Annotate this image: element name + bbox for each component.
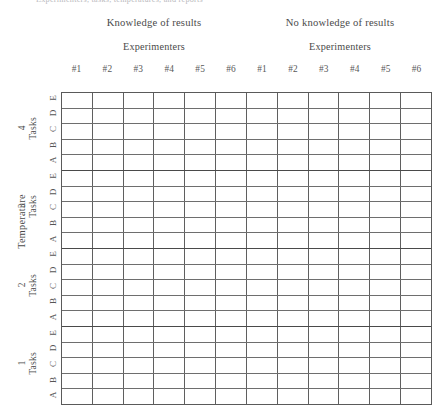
grid-cell[interactable] xyxy=(278,218,309,233)
grid-cell[interactable] xyxy=(309,343,340,358)
grid-cell[interactable] xyxy=(278,358,309,373)
grid-cell[interactable] xyxy=(216,311,247,326)
grid-cell[interactable] xyxy=(93,202,124,217)
grid-cell[interactable] xyxy=(62,218,93,233)
grid-cell[interactable] xyxy=(93,93,124,108)
grid-cell[interactable] xyxy=(62,296,93,311)
grid-cell[interactable] xyxy=(370,202,401,217)
grid-cell[interactable] xyxy=(93,233,124,248)
grid-cell[interactable] xyxy=(247,171,278,186)
grid-cell[interactable] xyxy=(278,327,309,342)
grid-cell[interactable] xyxy=(247,374,278,389)
grid-cell[interactable] xyxy=(185,124,216,139)
grid-cell[interactable] xyxy=(124,124,155,139)
grid-cell[interactable] xyxy=(62,109,93,124)
grid-cell[interactable] xyxy=(185,218,216,233)
grid-cell[interactable] xyxy=(93,187,124,202)
grid-cell[interactable] xyxy=(278,311,309,326)
grid-cell[interactable] xyxy=(154,124,185,139)
grid-cell[interactable] xyxy=(339,124,370,139)
grid-cell[interactable] xyxy=(93,296,124,311)
grid-cell[interactable] xyxy=(185,140,216,155)
grid-cell[interactable] xyxy=(339,311,370,326)
grid-cell[interactable] xyxy=(278,124,309,139)
grid-cell[interactable] xyxy=(401,327,431,342)
grid-cell[interactable] xyxy=(247,140,278,155)
grid-cell[interactable] xyxy=(62,265,93,280)
grid-cell[interactable] xyxy=(154,140,185,155)
grid-cell[interactable] xyxy=(370,233,401,248)
grid-cell[interactable] xyxy=(124,327,155,342)
grid-cell[interactable] xyxy=(247,93,278,108)
grid-cell[interactable] xyxy=(185,389,216,404)
grid-cell[interactable] xyxy=(370,124,401,139)
grid-cell[interactable] xyxy=(247,389,278,404)
grid-cell[interactable] xyxy=(370,265,401,280)
grid-cell[interactable] xyxy=(93,249,124,264)
grid-cell[interactable] xyxy=(62,140,93,155)
grid-cell[interactable] xyxy=(124,218,155,233)
grid-cell[interactable] xyxy=(62,124,93,139)
grid-cell[interactable] xyxy=(247,218,278,233)
grid-cell[interactable] xyxy=(185,233,216,248)
grid-cell[interactable] xyxy=(339,233,370,248)
grid-cell[interactable] xyxy=(278,93,309,108)
grid-cell[interactable] xyxy=(154,218,185,233)
grid-cell[interactable] xyxy=(401,218,431,233)
grid-cell[interactable] xyxy=(278,233,309,248)
grid-cell[interactable] xyxy=(216,343,247,358)
grid-cell[interactable] xyxy=(339,265,370,280)
grid-cell[interactable] xyxy=(278,171,309,186)
grid-cell[interactable] xyxy=(278,265,309,280)
grid-cell[interactable] xyxy=(154,233,185,248)
grid-cell[interactable] xyxy=(247,233,278,248)
grid-cell[interactable] xyxy=(185,343,216,358)
grid-cell[interactable] xyxy=(216,358,247,373)
grid-cell[interactable] xyxy=(309,374,340,389)
grid-cell[interactable] xyxy=(309,265,340,280)
grid-cell[interactable] xyxy=(247,202,278,217)
grid-cell[interactable] xyxy=(62,327,93,342)
grid-cell[interactable] xyxy=(62,249,93,264)
grid-cell[interactable] xyxy=(124,187,155,202)
grid-cell[interactable] xyxy=(185,93,216,108)
grid-cell[interactable] xyxy=(401,109,431,124)
grid-cell[interactable] xyxy=(247,187,278,202)
grid-cell[interactable] xyxy=(278,280,309,295)
grid-cell[interactable] xyxy=(339,202,370,217)
grid-cell[interactable] xyxy=(309,249,340,264)
grid-cell[interactable] xyxy=(154,389,185,404)
grid-cell[interactable] xyxy=(401,265,431,280)
grid-cell[interactable] xyxy=(278,296,309,311)
grid-cell[interactable] xyxy=(62,93,93,108)
grid-cell[interactable] xyxy=(309,124,340,139)
grid-cell[interactable] xyxy=(401,389,431,404)
grid-cell[interactable] xyxy=(62,155,93,170)
grid-cell[interactable] xyxy=(93,218,124,233)
grid-cell[interactable] xyxy=(93,389,124,404)
grid-cell[interactable] xyxy=(154,343,185,358)
grid-cell[interactable] xyxy=(124,311,155,326)
grid-cell[interactable] xyxy=(185,171,216,186)
grid-cell[interactable] xyxy=(93,109,124,124)
grid-cell[interactable] xyxy=(216,218,247,233)
grid-cell[interactable] xyxy=(185,249,216,264)
grid-cell[interactable] xyxy=(62,202,93,217)
grid-cell[interactable] xyxy=(124,140,155,155)
grid-cell[interactable] xyxy=(62,187,93,202)
grid-cell[interactable] xyxy=(185,109,216,124)
grid-cell[interactable] xyxy=(247,124,278,139)
grid-cell[interactable] xyxy=(154,93,185,108)
grid-cell[interactable] xyxy=(309,202,340,217)
grid-cell[interactable] xyxy=(401,374,431,389)
grid-cell[interactable] xyxy=(216,187,247,202)
grid-cell[interactable] xyxy=(93,358,124,373)
grid-cell[interactable] xyxy=(62,389,93,404)
grid-cell[interactable] xyxy=(401,155,431,170)
grid-cell[interactable] xyxy=(154,296,185,311)
grid-cell[interactable] xyxy=(370,109,401,124)
grid-cell[interactable] xyxy=(154,311,185,326)
grid-cell[interactable] xyxy=(339,218,370,233)
grid-cell[interactable] xyxy=(309,389,340,404)
grid-cell[interactable] xyxy=(124,343,155,358)
